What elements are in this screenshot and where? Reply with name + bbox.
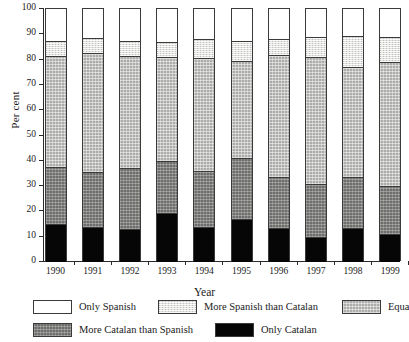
- legend-item-more-spanish[interactable]: More Spanish than Catalan: [158, 300, 318, 314]
- bar-1990: [45, 8, 67, 261]
- y-tick-mark: [39, 210, 43, 211]
- y-tick-label: 80: [27, 53, 37, 64]
- stacked-bar-chart: Per cent 0102030405060708090100 19901991…: [0, 0, 409, 342]
- bar-segment: [120, 9, 140, 41]
- legend-item-more-catalan[interactable]: More Catalan than Spanish: [33, 323, 193, 337]
- y-tick-mark: [39, 261, 43, 262]
- legend-label: More Catalan than Spanish: [79, 324, 193, 336]
- bar-1999: [379, 8, 401, 261]
- x-tick-label: 1998: [333, 266, 373, 276]
- bar-segment: [194, 227, 214, 262]
- bar-segment: [306, 37, 326, 57]
- x-tick-label: 1994: [184, 266, 224, 276]
- x-tick-label: 1995: [222, 266, 262, 276]
- y-tick-mark: [39, 160, 43, 161]
- bar-segment: [194, 58, 214, 171]
- bar-segment: [269, 177, 289, 228]
- bar-segment: [194, 171, 214, 227]
- y-tick-label: 0: [31, 255, 36, 266]
- x-tick-label: 1997: [296, 266, 336, 276]
- x-tick-label: 1993: [147, 266, 187, 276]
- legend-label: Equally Catalan and Spanish: [388, 301, 409, 313]
- x-tick-label: 1992: [110, 266, 150, 276]
- bar-1991: [82, 8, 104, 261]
- x-tick-mark: [111, 261, 112, 265]
- bar-segment: [232, 61, 252, 158]
- y-tick-label: 50: [27, 129, 37, 140]
- x-tick-label: 1996: [259, 266, 299, 276]
- bar-segment: [269, 228, 289, 262]
- bar-segment: [306, 237, 326, 262]
- bar-segment: [232, 158, 252, 219]
- bar-segment: [46, 167, 66, 224]
- bar-segment: [83, 227, 103, 262]
- y-axis-title: Per cent: [9, 91, 21, 128]
- y-tick-label: 60: [27, 103, 37, 114]
- legend-label: Only Spanish: [79, 301, 136, 313]
- bar-segment: [157, 42, 177, 57]
- chart-legend: Only SpanishMore Spanish than CatalanEqu…: [0, 297, 409, 342]
- bar-segment: [157, 161, 177, 213]
- bar-segment: [232, 219, 252, 262]
- bar-1992: [119, 8, 141, 261]
- bar-segment: [269, 9, 289, 39]
- x-tick-mark: [371, 261, 372, 265]
- bar-segment: [83, 38, 103, 53]
- bar-segment: [83, 172, 103, 226]
- bar-segment: [306, 57, 326, 184]
- legend-item-equally[interactable]: Equally Catalan and Spanish: [342, 300, 409, 314]
- y-tick-mark: [39, 59, 43, 60]
- y-tick-label: 100: [22, 2, 36, 13]
- y-tick-mark: [39, 236, 43, 237]
- y-tick-mark: [39, 185, 43, 186]
- bar-segment: [120, 56, 140, 169]
- bar-segment: [157, 213, 177, 262]
- legend-swatch-only-spanish: [33, 300, 72, 314]
- y-tick-mark: [39, 8, 43, 9]
- bar-1998: [342, 8, 364, 261]
- legend-swatch-equally: [342, 300, 381, 314]
- x-tick-mark: [297, 261, 298, 265]
- bar-segment: [380, 9, 400, 37]
- bar-segment: [269, 39, 289, 54]
- legend-item-only-catalan[interactable]: Only Catalan: [215, 323, 317, 337]
- legend-swatch-more-spanish: [158, 300, 197, 314]
- y-tick-mark: [39, 109, 43, 110]
- bar-1993: [156, 8, 178, 261]
- x-tick-label: 1990: [36, 266, 76, 276]
- bar-segment: [380, 234, 400, 262]
- bar-segment: [157, 57, 177, 161]
- legend-label: Only Catalan: [261, 324, 317, 336]
- bar-segment: [83, 9, 103, 38]
- bar-1997: [305, 8, 327, 261]
- bar-segment: [120, 41, 140, 56]
- bar-segment: [83, 53, 103, 172]
- bar-segment: [343, 177, 363, 228]
- x-tick-label: 1999: [370, 266, 409, 276]
- y-tick-label: 70: [27, 78, 37, 89]
- bar-segment: [380, 186, 400, 234]
- x-tick-mark: [260, 261, 261, 265]
- bar-segment: [194, 9, 214, 39]
- bar-1995: [231, 8, 253, 261]
- bar-segment: [380, 37, 400, 62]
- bar-segment: [343, 9, 363, 36]
- x-tick-mark: [334, 261, 335, 265]
- bar-segment: [306, 9, 326, 37]
- bar-segment: [194, 39, 214, 58]
- bar-1996: [268, 8, 290, 261]
- bar-segment: [120, 168, 140, 229]
- legend-label: More Spanish than Catalan: [204, 301, 318, 313]
- y-tick-label: 10: [27, 230, 37, 241]
- legend-item-only-spanish[interactable]: Only Spanish: [33, 300, 136, 314]
- bar-segment: [380, 62, 400, 186]
- bar-segment: [306, 184, 326, 237]
- x-tick-mark: [148, 261, 149, 265]
- bar-segment: [343, 228, 363, 262]
- legend-swatch-only-catalan: [215, 323, 254, 337]
- bar-segment: [120, 229, 140, 262]
- bar-segment: [269, 55, 289, 178]
- y-tick-label: 90: [27, 27, 37, 38]
- y-tick-mark: [39, 135, 43, 136]
- bar-segment: [46, 9, 66, 41]
